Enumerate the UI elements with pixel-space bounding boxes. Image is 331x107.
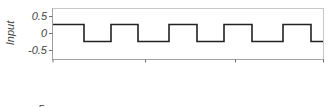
y-tick-label: -0.5 xyxy=(28,44,48,56)
input-series-line xyxy=(53,25,323,42)
y-ticks xyxy=(49,17,53,51)
y-tick-label: 0 xyxy=(41,27,48,39)
input-square-wave-chart: 0.5 0 -0.5 Input 5 xyxy=(0,0,331,107)
y-tick-label: 0.5 xyxy=(32,10,48,22)
y-axis-label: Input xyxy=(4,20,16,45)
next-chart-partial-tick-label: 5 xyxy=(38,103,45,107)
